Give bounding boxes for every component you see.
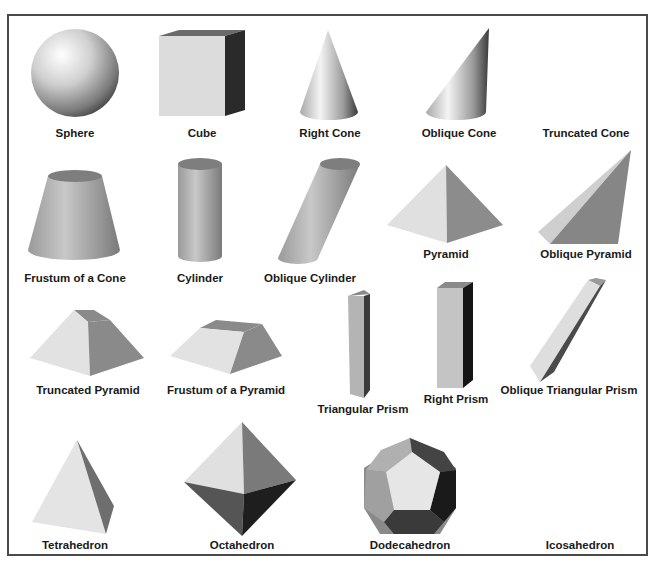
label-cylinder: Cylinder: [177, 272, 223, 284]
label-cube: Cube: [188, 127, 217, 139]
label-oblique-cylinder: Oblique Cylinder: [264, 272, 356, 284]
oblique-cylinder-shape: [278, 158, 360, 266]
label-right-cone: Right Cone: [299, 127, 360, 139]
label-oblique-pyramid: Oblique Pyramid: [540, 248, 631, 260]
dodecahedron-shape: [364, 438, 456, 534]
triangular-prism-shape: [348, 290, 374, 400]
label-frustum-of-a-pyramid: Frustum of a Pyramid: [167, 384, 285, 396]
label-triangular-prism: Triangular Prism: [318, 403, 409, 415]
label-sphere: Sphere: [56, 127, 95, 139]
label-octahedron: Octahedron: [210, 539, 275, 551]
oblique-triangular-prism-shape: [530, 278, 608, 384]
label-frustum-of-a-cone: Frustum of a Cone: [24, 272, 126, 284]
label-dodecahedron: Dodecahedron: [370, 539, 451, 551]
right-prism-shape: [437, 282, 473, 390]
sphere-shape: [30, 28, 120, 118]
oblique-cone-shape: [425, 28, 495, 122]
octahedron-shape: [184, 422, 298, 538]
tetrahedron-shape: [32, 440, 116, 536]
label-pyramid: Pyramid: [423, 248, 468, 260]
label-oblique-triangular-prism: Oblique Triangular Prism: [501, 384, 638, 396]
label-truncated-cone: Truncated Cone: [543, 127, 630, 139]
label-oblique-cone: Oblique Cone: [422, 127, 497, 139]
label-tetrahedron: Tetrahedron: [42, 539, 108, 551]
right-cone-shape: [300, 30, 360, 122]
pyramid-shape: [387, 165, 505, 245]
label-right-prism: Right Prism: [424, 393, 489, 405]
label-truncated-pyramid: Truncated Pyramid: [36, 384, 140, 396]
frustum-of-a-pyramid-shape: [170, 320, 282, 376]
oblique-pyramid-shape: [538, 150, 634, 246]
truncated-pyramid-shape: [30, 310, 144, 378]
cube-shape: [157, 30, 247, 120]
frustum-of-a-cone-shape: [28, 170, 122, 262]
label-icosahedron: Icosahedron: [546, 539, 614, 551]
cylinder-shape: [177, 158, 223, 264]
